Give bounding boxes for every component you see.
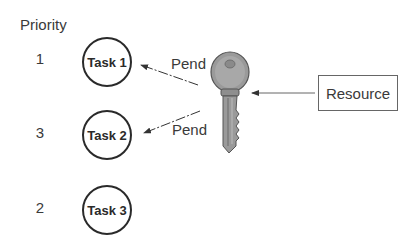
task-1-node: Task 1 [82, 37, 132, 87]
key-icon [211, 52, 249, 153]
resource-box: Resource [318, 75, 398, 111]
connector-layer [0, 0, 418, 251]
task-3-node: Task 3 [82, 185, 132, 235]
task-2-node: Task 2 [82, 110, 132, 160]
pend-label-task-2: Pend [172, 121, 207, 138]
pend-label-task-1: Pend [171, 55, 206, 72]
